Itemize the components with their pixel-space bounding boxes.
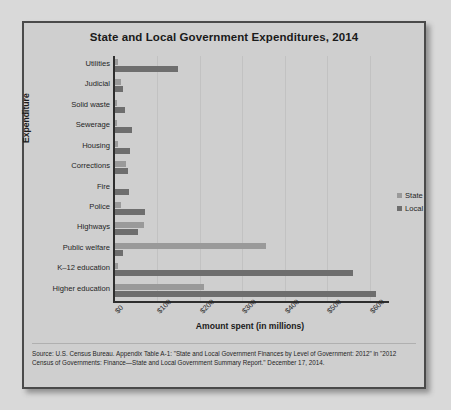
bar-state xyxy=(115,100,117,106)
y-axis-category-label: Higher education xyxy=(53,284,110,293)
legend-swatch-icon xyxy=(397,193,402,198)
bar-state xyxy=(115,222,144,228)
bar-local xyxy=(115,127,132,133)
bar-state xyxy=(115,202,121,208)
bar-local xyxy=(115,209,145,215)
y-axis-category-label: Police xyxy=(89,202,110,211)
bar-local xyxy=(115,168,128,174)
bar-local xyxy=(115,66,178,72)
bar-local xyxy=(115,250,123,256)
legend-swatch-icon xyxy=(397,206,402,211)
chart-category-row: Higher education xyxy=(115,281,389,301)
y-axis-category-label: Solid waste xyxy=(71,100,110,109)
source-divider xyxy=(32,343,416,344)
chart-title: State and Local Government Expenditures,… xyxy=(24,31,424,43)
y-axis-category-label: K–12 education xyxy=(57,263,110,272)
chart-category-row: Highways xyxy=(115,219,389,239)
bar-state xyxy=(115,263,118,269)
bar-state xyxy=(115,79,121,85)
bar-local xyxy=(115,148,130,154)
bar-state xyxy=(115,120,117,126)
bar-local xyxy=(115,291,376,297)
bar-state xyxy=(115,59,118,65)
chart-legend: StateLocal xyxy=(397,191,423,217)
legend-label: State xyxy=(405,191,423,200)
chart-category-row: Utilities xyxy=(115,56,389,76)
y-axis-title: Expenditure xyxy=(21,93,31,143)
bar-local xyxy=(115,189,129,195)
bar-local xyxy=(115,229,138,235)
chart-category-row: Corrections xyxy=(115,158,389,178)
bar-state xyxy=(115,161,126,167)
chart-category-row: Solid waste xyxy=(115,97,389,117)
chart-category-row: Fire xyxy=(115,179,389,199)
y-axis-category-label: Fire xyxy=(97,182,110,191)
y-axis-category-label: Housing xyxy=(82,141,110,150)
bar-local xyxy=(115,86,123,92)
x-axis-tick-label: $0 xyxy=(113,303,125,315)
x-axis-title: Amount spent (in millions) xyxy=(113,321,387,331)
plot-area: $0$100$200$300$400$500$600UtilitiesJudic… xyxy=(113,56,389,303)
y-axis-category-label: Public welfare xyxy=(63,243,110,252)
chart-category-row: Public welfare xyxy=(115,240,389,260)
bar-state xyxy=(115,284,204,290)
legend-item: State xyxy=(397,191,423,200)
chart-category-row: Housing xyxy=(115,138,389,158)
chart-category-row: Sewerage xyxy=(115,117,389,137)
y-axis-category-label: Utilities xyxy=(86,59,110,68)
bar-local xyxy=(115,107,125,113)
bar-local xyxy=(115,270,353,276)
chart-figure-frame: State and Local Government Expenditures,… xyxy=(22,21,426,389)
y-axis-category-label: Sewerage xyxy=(76,120,110,129)
bar-state xyxy=(115,141,118,147)
y-axis-category-label: Corrections xyxy=(71,161,110,170)
chart-category-row: K–12 education xyxy=(115,260,389,280)
y-axis-category-label: Highways xyxy=(77,222,110,231)
bar-state xyxy=(115,243,266,249)
y-axis-category-label: Judicial xyxy=(85,79,110,88)
legend-label: Local xyxy=(405,204,423,213)
chart-category-row: Judicial xyxy=(115,76,389,96)
chart-category-row: Police xyxy=(115,199,389,219)
source-note: Source: U.S. Census Bureau. Appendix Tab… xyxy=(32,349,416,367)
legend-item: Local xyxy=(397,204,423,213)
